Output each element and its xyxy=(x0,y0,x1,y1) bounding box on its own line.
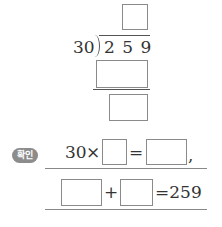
check-line-divider-1 xyxy=(45,168,207,169)
division-vinculum xyxy=(99,35,150,36)
check-line-divider-2 xyxy=(45,209,207,210)
plus-sign: + xyxy=(104,182,118,202)
times-sign: × xyxy=(86,142,100,162)
check-addend-box-1[interactable] xyxy=(61,179,102,206)
dividend: 2 5 9 xyxy=(104,37,152,57)
check-addend-box-2[interactable] xyxy=(120,179,153,206)
divisor: 30 xyxy=(73,37,95,57)
product-answer-box[interactable] xyxy=(96,60,148,88)
subtraction-line xyxy=(93,89,150,90)
quotient-answer-box[interactable] xyxy=(122,4,148,30)
comma: , xyxy=(188,145,193,165)
check-factor: 30 xyxy=(65,142,87,162)
equals-sign: = xyxy=(129,142,143,162)
check-badge: 확인 xyxy=(12,148,38,163)
remainder-answer-box[interactable] xyxy=(109,94,148,121)
check-product-box[interactable] xyxy=(146,139,187,165)
check-quotient-box[interactable] xyxy=(102,139,127,165)
sum-result: =259 xyxy=(155,182,202,202)
